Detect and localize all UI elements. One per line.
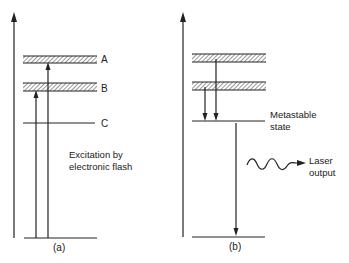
laser-wave-icon [247, 159, 298, 170]
caption-b: (b) [229, 241, 241, 252]
laser-label-line2: output [309, 167, 336, 178]
caption-a: (a) [53, 242, 65, 253]
label-a: A [101, 54, 108, 65]
band-lower [192, 82, 266, 90]
band-b-hatch [23, 83, 97, 91]
label-c: C [101, 118, 108, 129]
band-a-hatch [23, 56, 97, 63]
metastable-label-line2: state [270, 121, 291, 132]
panel-b: Metastable state Laser output (b) [180, 12, 336, 252]
band-upper-hatch [192, 54, 266, 62]
laser-output-arrowhead [297, 160, 306, 166]
label-b: B [101, 83, 108, 94]
excitation-label-line1: Excitation by [69, 149, 123, 160]
energy-axis-arrowhead-a [11, 12, 17, 22]
arrowhead-down-1 [203, 113, 208, 121]
energy-axis-arrowhead-b [180, 12, 186, 22]
energy-level-diagram: A B C Excitation by electronic flash (a) [0, 0, 349, 263]
laser-label-line1: Laser [309, 155, 333, 166]
metastable-label-line1: Metastable [270, 109, 316, 120]
excitation-label-line2: electronic flash [69, 161, 132, 172]
arrowhead-down-2 [214, 113, 219, 121]
band-lower-hatch [192, 82, 266, 90]
band-a [23, 56, 97, 63]
band-b [23, 83, 97, 91]
arrowhead-down-laser [234, 228, 239, 236]
band-upper [192, 54, 266, 62]
panel-a: A B C Excitation by electronic flash (a) [11, 12, 132, 253]
